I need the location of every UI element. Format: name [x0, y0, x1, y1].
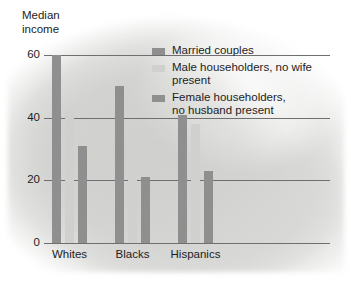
y-tick-label-0: 0 — [16, 236, 40, 248]
y-tick-label-60: 60 — [16, 48, 40, 60]
bar-hispanics-series-2 — [204, 171, 213, 243]
x-axis-baseline — [44, 243, 330, 244]
median-income-bar-chart: Median income 0204060 WhitesBlacksHispan… — [0, 0, 351, 286]
legend-label-0: Married couples — [172, 44, 254, 58]
bar-blacks-series-1 — [128, 133, 137, 243]
bar-whites-series-2 — [78, 146, 87, 243]
legend-label-2: Female householders, no husband present — [172, 91, 286, 118]
light-gray-swatch — [152, 65, 165, 72]
bar-whites-series-0 — [52, 55, 61, 243]
bar-group-whites — [52, 55, 96, 243]
y-axis-tick-labels: 0204060 — [14, 0, 40, 286]
dark-gray-swatch — [152, 48, 165, 55]
bar-blacks-series-0 — [115, 86, 124, 243]
legend-item-1: Male householders, no wife present — [152, 61, 348, 88]
y-tick-label-40: 40 — [16, 111, 40, 123]
legend-label-1: Male householders, no wife present — [172, 61, 348, 88]
bar-hispanics-series-1 — [191, 124, 200, 243]
y-tick-label-20: 20 — [16, 173, 40, 185]
dark-gray-swatch — [152, 95, 165, 102]
legend-item-2: Female householders, no husband present — [152, 91, 348, 118]
bar-hispanics-series-0 — [178, 115, 187, 243]
bar-blacks-series-2 — [141, 177, 150, 243]
chart-legend: Married couplesMale householders, no wif… — [152, 44, 348, 121]
legend-item-0: Married couples — [152, 44, 348, 58]
bar-whites-series-1 — [65, 111, 74, 243]
x-label-hispanics: Hispanics — [156, 248, 236, 260]
